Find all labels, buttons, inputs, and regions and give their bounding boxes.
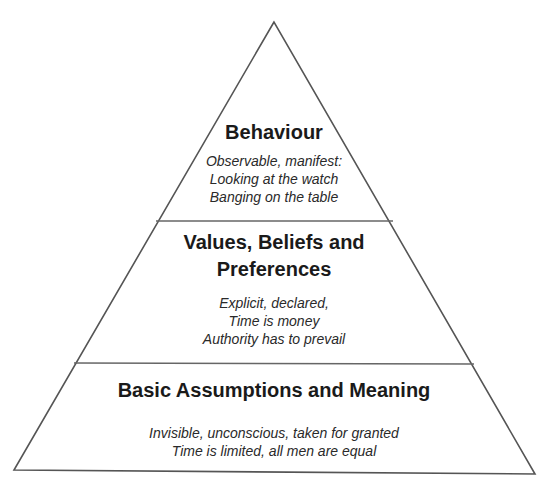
description-line: Banging on the table (164, 188, 384, 206)
description-line: Looking at the watch (164, 170, 384, 188)
description-line: Time is money (144, 312, 404, 330)
description-line: Observable, manifest: (164, 152, 384, 170)
layer-behaviour-description: Observable, manifest: Looking at the wat… (164, 152, 384, 206)
divider-bottom (74, 363, 474, 364)
description-line: Invisible, unconscious, taken for grante… (84, 424, 464, 442)
layer-assumptions-description: Invisible, unconscious, taken for grante… (84, 424, 464, 460)
description-line: Explicit, declared, (144, 294, 404, 312)
layer-behaviour-title: Behaviour (174, 119, 374, 146)
description-line: Authority has to prevail (144, 330, 404, 348)
description-line: Time is limited, all men are equal (84, 442, 464, 460)
title-line: Values, Beliefs and (124, 229, 424, 256)
title-line: Preferences (124, 256, 424, 283)
layer-values-title: Values, Beliefs and Preferences (124, 229, 424, 283)
layer-assumptions-title: Basic Assumptions and Meaning (64, 377, 484, 404)
layer-values-description: Explicit, declared, Time is money Author… (144, 294, 404, 348)
